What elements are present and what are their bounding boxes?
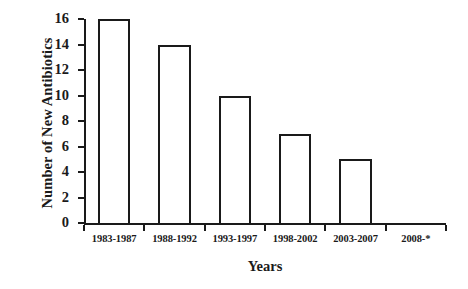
x-tick-label: 1988-1992: [152, 233, 197, 244]
y-tick-label: 6: [62, 138, 69, 155]
x-tick-label: 1993-1997: [213, 233, 258, 244]
x-tick-label: 2008-*: [401, 233, 430, 244]
y-tick-mark: 12: [78, 69, 84, 71]
x-tick-mark: [264, 225, 266, 231]
y-tick-mark: 16: [78, 18, 84, 20]
y-tick-label: 16: [55, 10, 70, 27]
bar: [219, 96, 252, 226]
bar: [339, 159, 372, 225]
y-tick-mark: 6: [78, 146, 84, 148]
bar: [98, 19, 131, 225]
y-tick-label: 14: [55, 36, 70, 53]
x-tick-mark: [143, 225, 145, 231]
plot-area: 0246810121416 1983-19871988-19921993-199…: [84, 19, 446, 224]
y-tick-mark: 4: [78, 171, 84, 173]
x-tick-mark: [385, 225, 387, 231]
y-tick-label: 8: [62, 112, 69, 129]
y-tick-label: 2: [62, 189, 69, 206]
x-tick-label: 2003-2007: [333, 233, 378, 244]
x-tick-label: 1983-1987: [92, 233, 137, 244]
x-tick-mark: [83, 225, 85, 231]
y-tick-mark: 8: [78, 120, 84, 122]
bar: [158, 45, 191, 226]
y-tick-label: 4: [62, 163, 69, 180]
x-tick-mark: [324, 225, 326, 231]
y-tick-label: 10: [55, 87, 70, 104]
y-tick-mark: 2: [78, 197, 84, 199]
x-tick-mark: [445, 225, 447, 231]
y-tick-mark: 10: [78, 95, 84, 97]
chart-figure: Number of New Antibiotics 0246810121416 …: [0, 0, 468, 289]
y-tick-label: 0: [62, 214, 69, 231]
bar: [279, 134, 312, 225]
y-tick-mark: 0: [78, 222, 84, 224]
y-tick-mark: 14: [78, 44, 84, 46]
x-tick-mark: [204, 225, 206, 231]
y-axis-line: [84, 19, 86, 225]
x-tick-label: 1998-2002: [273, 233, 318, 244]
x-axis-title: Years: [84, 258, 446, 275]
y-tick-label: 12: [55, 61, 70, 78]
